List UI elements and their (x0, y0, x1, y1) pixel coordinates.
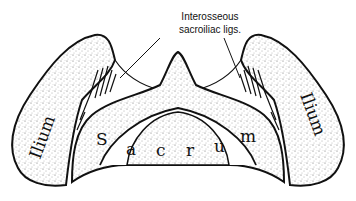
callout-line-1: Interosseous (150, 10, 270, 23)
callout-line-2: sacroiliac ligs. (150, 23, 270, 36)
sacrum-letter-r: r (186, 140, 195, 160)
callout-line-right (224, 38, 240, 78)
ligament-callout: Interosseous sacroiliac ligs. (150, 10, 270, 36)
sacrum-letter-u: u (214, 136, 225, 156)
sacrum-letter-c: c (156, 140, 166, 160)
callout-line-left (120, 38, 160, 78)
sacrum-letter-a: a (126, 139, 136, 159)
sacrum-letter-m: m (240, 126, 256, 146)
sacrum-letter-s: S (96, 129, 108, 149)
sacroiliac-diagram: Ilium Ilium S a c r u m Interosseous sac… (0, 0, 356, 201)
